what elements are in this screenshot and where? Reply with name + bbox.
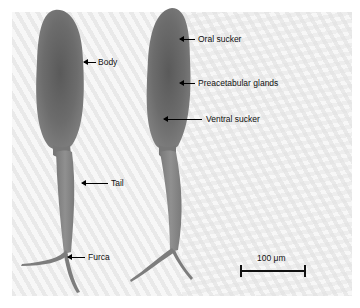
scale-bar-label: 100 μm bbox=[257, 253, 286, 263]
oral-sucker-arrow bbox=[180, 39, 195, 40]
right-tail bbox=[160, 151, 182, 253]
scale-bar bbox=[240, 270, 306, 272]
left-tail bbox=[56, 151, 74, 255]
tail-arrow bbox=[82, 183, 108, 184]
label-oral-sucker: Oral sucker bbox=[198, 34, 241, 44]
left-furca-1 bbox=[21, 250, 68, 266]
label-tail: Tail bbox=[111, 178, 124, 188]
right-furca-1 bbox=[130, 248, 175, 282]
left-cercaria bbox=[21, 10, 84, 293]
right-cercaria bbox=[130, 8, 193, 282]
organisms-illustration bbox=[0, 0, 360, 308]
label-ventral-sucker: Ventral sucker bbox=[206, 114, 260, 124]
label-preacetabular-glands: Preacetabular glands bbox=[198, 78, 278, 88]
furca-arrow bbox=[68, 257, 85, 258]
right-furca-2 bbox=[172, 250, 193, 280]
label-furca: Furca bbox=[88, 252, 110, 262]
label-body: Body bbox=[98, 57, 117, 67]
body-arrow bbox=[84, 62, 96, 63]
preacetabular-glands-arrow bbox=[180, 83, 195, 84]
left-body bbox=[36, 10, 84, 150]
ventral-sucker-arrow bbox=[164, 119, 202, 120]
